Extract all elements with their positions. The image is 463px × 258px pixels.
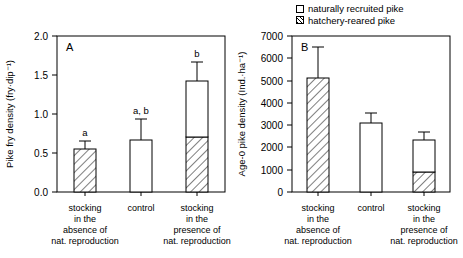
legend-item-hatchery-reared: hatchery-reared pike xyxy=(296,15,461,27)
panel-a-category-labels: stocking in the absence of nat. reproduc… xyxy=(51,203,231,246)
panel-a-cat-3-line-1: stocking xyxy=(180,203,213,213)
panel-b-cat-3-line-3: presence of xyxy=(400,225,448,235)
panel-a-cat-3-line-4: nat. reproduction xyxy=(163,236,231,246)
panel-a-ytick-3: 1.5 xyxy=(34,70,48,81)
panel-a-cat-3-line-2: in the xyxy=(186,214,208,224)
panel-b-ytick-4: 4000 xyxy=(261,98,284,109)
panel-b-ytick-6: 6000 xyxy=(261,53,284,64)
panel-a-cat-1-line-2: in the xyxy=(74,214,96,224)
panel-a-cat-1-line-3: absence of xyxy=(63,225,108,235)
panel-a-letter: A xyxy=(66,41,74,53)
panel-a-ylabel: Pike fry density (fry·dip⁻¹) xyxy=(4,60,15,168)
panel-b-ylabel: Age-0 pike density (Ind.·ha⁻¹) xyxy=(236,52,247,177)
panel-b-cat-3-line-4: nat. reproduction xyxy=(390,236,458,246)
panel-b: Age-0 pike density (Ind.·ha⁻¹) B 0 1000 … xyxy=(232,0,463,258)
panel-b-cat-1-line-4: nat. reproduction xyxy=(284,236,352,246)
panel-a-bar-3: b xyxy=(186,48,208,192)
panel-b-svg: Age-0 pike density (Ind.·ha⁻¹) B 0 1000 … xyxy=(232,0,463,258)
panel-a-bar-2: a, b xyxy=(130,105,152,192)
panel-b-letter: B xyxy=(301,41,308,53)
panel-a-bar-1: a xyxy=(74,127,96,192)
legend: naturally recruited pike hatchery-reared… xyxy=(296,3,461,26)
legend-label-hatchery-reared: hatchery-reared pike xyxy=(308,15,395,27)
open-square-icon xyxy=(296,5,304,13)
panel-b-y-axis: 0 1000 2000 3000 4000 5000 6000 7000 xyxy=(261,31,292,198)
panel-b-cat-1-line-3: absence of xyxy=(296,225,341,235)
panel-a-ytick-1: 0.5 xyxy=(34,148,48,159)
panel-b-bar-3 xyxy=(413,132,435,192)
legend-label-naturally-recruited: naturally recruited pike xyxy=(308,3,404,15)
panel-b-bar-2 xyxy=(360,113,382,192)
panel-a-cat-1-line-1: stocking xyxy=(68,203,101,213)
panel-b-cat-3-line-2: in the xyxy=(413,214,435,224)
panel-a-cat-3-line-3: presence of xyxy=(173,225,221,235)
panel-b-bar-1 xyxy=(307,47,329,192)
panel-a-sig-1: a xyxy=(82,127,88,138)
panel-b-ytick-1: 1000 xyxy=(261,165,284,176)
panel-a-sig-3: b xyxy=(194,48,199,59)
hatched-square-icon xyxy=(296,16,304,24)
panel-b-ytick-2: 2000 xyxy=(261,142,284,153)
panel-a-sig-2: a, b xyxy=(133,105,149,116)
legend-item-naturally-recruited: naturally recruited pike xyxy=(296,3,461,15)
panel-a-svg: Pike fry density (fry·dip⁻¹) A 0.0 0.5 1… xyxy=(0,0,232,258)
panel-b-ytick-3: 3000 xyxy=(261,120,284,131)
panel-b-ytick-7: 7000 xyxy=(261,31,284,42)
panel-a-ytick-4: 2.0 xyxy=(34,31,48,42)
panel-a-cat-2-line-1: control xyxy=(127,203,154,213)
panel-b-cat-1-line-1: stocking xyxy=(301,203,334,213)
panel-b-category-labels: stocking in the absence of nat. reproduc… xyxy=(284,203,458,246)
figure-container: Pike fry density (fry·dip⁻¹) A 0.0 0.5 1… xyxy=(0,0,463,258)
panel-a-ytick-0: 0.0 xyxy=(34,187,48,198)
panel-a-y-axis: 0.0 0.5 1.0 1.5 2.0 xyxy=(34,31,57,198)
panel-b-cat-3-line-1: stocking xyxy=(407,203,440,213)
panel-b-cat-1-line-2: in the xyxy=(307,214,329,224)
panel-a-cat-1-line-4: nat. reproduction xyxy=(51,236,119,246)
panel-a: Pike fry density (fry·dip⁻¹) A 0.0 0.5 1… xyxy=(0,0,232,258)
panel-b-cat-2-line-1: control xyxy=(357,203,384,213)
panel-b-x-axis xyxy=(318,192,424,196)
panel-b-ytick-0: 0 xyxy=(277,187,283,198)
panel-a-x-axis xyxy=(85,192,197,196)
panel-a-ytick-2: 1.0 xyxy=(34,109,48,120)
panel-b-ytick-5: 5000 xyxy=(261,76,284,87)
